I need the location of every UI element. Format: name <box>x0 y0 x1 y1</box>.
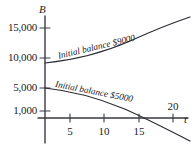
y-tick-label-1000: 1,000 <box>0 105 37 116</box>
y-tick-label-15000: 15,000 <box>0 22 37 33</box>
x-tick-label-10: 10 <box>94 126 114 137</box>
x-axis-label: t <box>184 114 187 125</box>
x-tick-label-5: 5 <box>60 126 80 137</box>
caption-fragment <box>0 147 195 154</box>
balance-growth-chart: B t 15,000 10,000 5,000 1,000 5 10 15 20… <box>0 0 195 154</box>
y-tick-label-10000: 10,000 <box>0 52 37 63</box>
x-tick-label-20: 20 <box>163 101 183 112</box>
y-tick-label-5000: 5,000 <box>0 82 37 93</box>
x-tick-label-15: 15 <box>129 126 149 137</box>
y-axis-label: B <box>39 4 46 15</box>
